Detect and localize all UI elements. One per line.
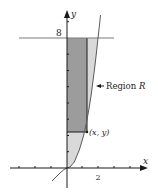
region-label-text: Region bbox=[106, 81, 139, 91]
point-marker bbox=[86, 131, 88, 133]
region-pointer-arrow-icon bbox=[96, 84, 101, 88]
shaded-rectangle bbox=[67, 38, 87, 132]
x-axis-label: x bbox=[143, 156, 148, 166]
y-tick-label-8: 8 bbox=[56, 28, 62, 38]
diagram-canvas: y x 8 2 (x, y) Region R bbox=[0, 0, 158, 192]
point-label: (x, y) bbox=[89, 128, 109, 137]
region-label: Region R bbox=[106, 81, 146, 91]
y-axis-label: y bbox=[70, 9, 77, 19]
y-axis-arrow-icon bbox=[64, 10, 70, 18]
x-tick-label-2: 2 bbox=[96, 173, 101, 182]
region-label-name: R bbox=[138, 81, 146, 91]
